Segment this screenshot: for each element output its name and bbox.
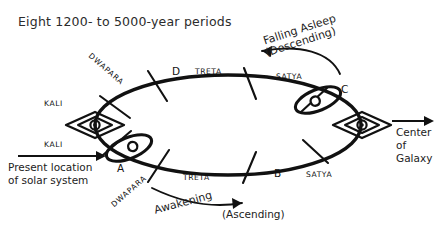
label-point-d: D <box>172 66 180 77</box>
present-location-arrow-icon <box>18 151 106 161</box>
label-treta-bottom: TRETA <box>183 174 210 182</box>
right-eye-icon <box>333 112 391 138</box>
orbit-ellipse <box>95 75 361 175</box>
tick-mark <box>148 71 167 101</box>
diagram-canvas: Eight 1200- to 5000-year periods DWAPARA… <box>0 0 439 232</box>
label-satya-bottom: SATYA <box>306 171 332 179</box>
annotation-ascending: (Ascending) <box>222 208 285 221</box>
label-kali-top: KALI <box>44 100 63 108</box>
annotation-galaxy-line1: Center <box>396 126 431 139</box>
annotation-present-location-line2: of solar system <box>8 174 88 187</box>
orbit-ellipse-group <box>95 75 361 175</box>
left-eye-icon <box>66 112 124 138</box>
label-point-a: A <box>117 163 124 174</box>
solar-system-a-icon <box>103 129 155 166</box>
division-ticks-group <box>100 68 328 183</box>
annotation-galaxy-line3: Galaxy <box>396 152 432 165</box>
label-satya-top: SATYA <box>276 73 302 81</box>
galaxy-arrow-icon <box>392 116 434 126</box>
yuga-cycle-svg <box>0 0 439 232</box>
tick-mark <box>244 68 256 99</box>
tick-mark <box>243 152 256 183</box>
annotation-galaxy-line2: of <box>396 139 406 152</box>
label-kali-bottom: KALI <box>44 141 63 149</box>
label-treta-top: TRETA <box>195 68 222 76</box>
annotation-present-location-line1: Present location <box>8 161 92 174</box>
label-point-b: B <box>274 168 281 179</box>
label-point-c: C <box>341 84 348 95</box>
tick-mark <box>303 140 328 163</box>
diagram-title: Eight 1200- to 5000-year periods <box>18 16 232 29</box>
